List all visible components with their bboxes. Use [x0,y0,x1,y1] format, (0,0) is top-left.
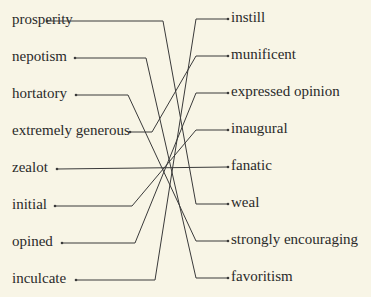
endpoint-dot [227,277,230,280]
endpoint-dot [54,205,57,208]
endpoint-dot [61,242,64,245]
connector-lines [0,0,371,297]
connector-line [47,21,228,204]
endpoint-dot [227,18,230,21]
endpoint-dot [75,94,78,97]
endpoint-dot [227,129,230,132]
connector-line [57,167,228,169]
endpoint-dot [227,203,230,206]
connector-line [130,56,228,132]
endpoint-dot [56,168,59,171]
endpoint-dot [227,55,230,58]
endpoint-dot [227,240,230,243]
endpoint-dot [227,166,230,169]
endpoint-dot [227,92,230,95]
endpoint-dot [46,20,49,23]
endpoint-dot [129,131,132,134]
endpoint-dot [74,57,77,60]
endpoint-dot [75,279,78,282]
